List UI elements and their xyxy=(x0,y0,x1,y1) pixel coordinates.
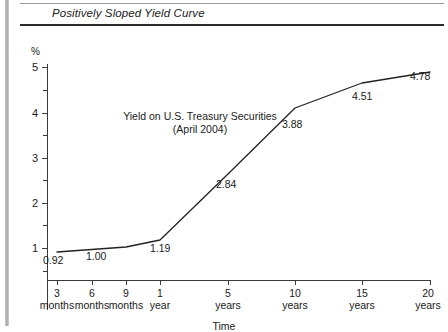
plot-area: % 1 2 3 4 5 3 months 6 mon xyxy=(0,26,448,326)
data-label-0: 0.92 xyxy=(43,254,63,266)
data-label-2: 1.19 xyxy=(150,242,170,254)
yield-curve-line xyxy=(0,26,448,326)
data-label-6: 4.78 xyxy=(410,70,430,82)
data-label-1: 1.00 xyxy=(86,250,106,262)
caption-band: Positively Sloped Yield Curve xyxy=(20,3,444,25)
data-label-3: 2.84 xyxy=(216,178,236,190)
figure-title: Positively Sloped Yield Curve xyxy=(52,7,205,19)
data-label-5: 4.51 xyxy=(352,90,372,102)
caption-top-rule xyxy=(20,3,444,4)
data-label-4: 3.88 xyxy=(282,118,302,130)
